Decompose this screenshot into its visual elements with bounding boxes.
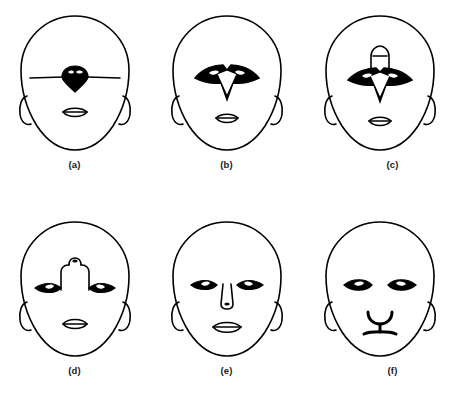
figure-label-b: (b) xyxy=(220,159,233,170)
face-diagram-a xyxy=(5,8,145,158)
figure-panel-a: (a) xyxy=(0,0,151,202)
figure-label-a: (a) xyxy=(68,159,80,170)
face-diagram-e xyxy=(157,214,297,364)
face-diagram-f xyxy=(310,214,450,364)
figure-panel-f: (f) xyxy=(302,202,453,403)
head-outline-f xyxy=(326,222,434,356)
face-figure-grid: (a) (b) xyxy=(0,0,453,403)
nose-bridge-right-d xyxy=(81,265,89,290)
brow-arch-c xyxy=(371,46,389,70)
figure-label-f: (f) xyxy=(387,365,397,376)
figure-label-d: (d) xyxy=(68,365,81,376)
figure-panel-e: (e) xyxy=(151,202,302,403)
brow-line-right-a xyxy=(87,77,120,78)
figure-panel-b: (b) xyxy=(151,0,302,202)
figure-label-c: (c) xyxy=(386,159,398,170)
face-diagram-d xyxy=(5,214,145,364)
nostril-d xyxy=(72,259,78,262)
nose-y-curve-f xyxy=(368,312,392,324)
head-outline-e xyxy=(173,222,281,356)
face-diagram-b xyxy=(157,8,297,158)
mouth-bar-f xyxy=(364,331,396,333)
nose-diamond-a xyxy=(62,66,88,92)
nose-bridge-left-d xyxy=(61,265,69,290)
figure-panel-c: (c) xyxy=(302,0,453,202)
face-diagram-c xyxy=(310,8,450,158)
nostril-e xyxy=(224,302,230,305)
figure-label-e: (e) xyxy=(220,365,232,376)
brow-line-left-a xyxy=(30,77,63,78)
figure-panel-d: (d) xyxy=(0,202,151,403)
